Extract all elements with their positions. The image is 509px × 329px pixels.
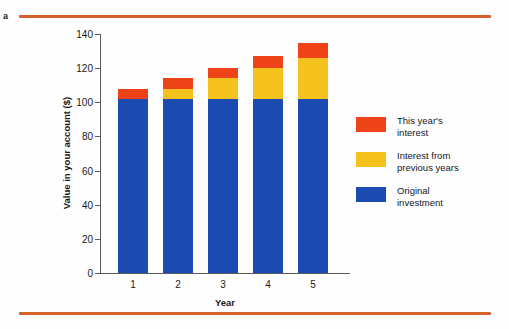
- bar-segment: [298, 58, 328, 99]
- bar-segment: [208, 78, 238, 98]
- bar-column: [253, 56, 283, 273]
- y-axis-tick: [95, 239, 100, 240]
- y-axis-line: [100, 34, 101, 273]
- x-axis-tick-label: 3: [208, 279, 238, 290]
- bar-segment: [298, 43, 328, 58]
- legend-label: Interest fromprevious years: [397, 150, 504, 174]
- bar-segment: [163, 78, 193, 88]
- legend-label: Originalinvestment: [397, 185, 504, 209]
- y-axis-tick: [95, 34, 100, 35]
- legend-label-line: interest: [397, 127, 504, 139]
- bar-segment: [163, 89, 193, 99]
- legend-label: This year'sinterest: [397, 115, 504, 139]
- bar-segment: [163, 99, 193, 273]
- legend-label-line: Interest from: [397, 150, 504, 162]
- legend-swatch: [356, 187, 386, 202]
- y-axis-title: Value in your account ($): [61, 97, 72, 209]
- y-axis-tick: [95, 136, 100, 137]
- y-axis-tick: [95, 102, 100, 103]
- bar-segment: [298, 99, 328, 273]
- figure-panel: a 020406080100120140 Value in your accou…: [0, 0, 509, 329]
- legend-label-line: Original: [397, 185, 504, 197]
- legend-label-line: previous years: [397, 162, 504, 174]
- x-axis-tick-label: 1: [118, 279, 148, 290]
- legend-label-line: This year's: [397, 115, 504, 127]
- x-axis-line: [100, 273, 350, 274]
- legend-item: Originalinvestment: [356, 185, 504, 211]
- legend-label-line: investment: [397, 197, 504, 209]
- bar-column: [118, 89, 148, 273]
- y-axis-tick: [95, 205, 100, 206]
- bar-segment: [118, 89, 148, 99]
- legend-swatch: [356, 152, 386, 167]
- bar-segment: [208, 68, 238, 78]
- y-axis-tick: [95, 68, 100, 69]
- bar-column: [208, 68, 238, 273]
- y-axis-tick-label: 100: [76, 97, 93, 108]
- bottom-rule: [19, 312, 491, 315]
- legend-swatch: [356, 117, 386, 132]
- bar-column: [163, 78, 193, 273]
- legend-item: Interest fromprevious years: [356, 150, 504, 176]
- y-axis-tick-label: 80: [82, 131, 93, 142]
- bar-segment: [253, 56, 283, 68]
- y-axis-tick-label: 40: [82, 199, 93, 210]
- panel-label: a: [3, 11, 8, 21]
- y-axis-tick-label: 20: [82, 233, 93, 244]
- legend-item: This year'sinterest: [356, 115, 504, 141]
- plot-area: Value in your account ($) 12345 Year: [100, 34, 350, 273]
- x-axis-tick-label: 4: [253, 279, 283, 290]
- x-axis-title: Year: [100, 297, 350, 308]
- y-axis-tick-label: 0: [87, 268, 93, 279]
- y-axis-tick-label: 120: [76, 63, 93, 74]
- bar-column: [298, 43, 328, 273]
- y-axis-tick: [95, 171, 100, 172]
- bar-segment: [253, 68, 283, 99]
- top-rule: [19, 15, 491, 18]
- bar-segment: [253, 99, 283, 273]
- chart-legend: This year'sinterestInterest fromprevious…: [356, 115, 504, 220]
- bar-segment: [118, 99, 148, 273]
- x-axis-tick-label: 2: [163, 279, 193, 290]
- y-axis-tick-label: 140: [76, 29, 93, 40]
- y-axis-tick: [95, 273, 100, 274]
- y-axis-tick-label: 60: [82, 165, 93, 176]
- x-axis-tick-label: 5: [298, 279, 328, 290]
- bar-segment: [208, 99, 238, 273]
